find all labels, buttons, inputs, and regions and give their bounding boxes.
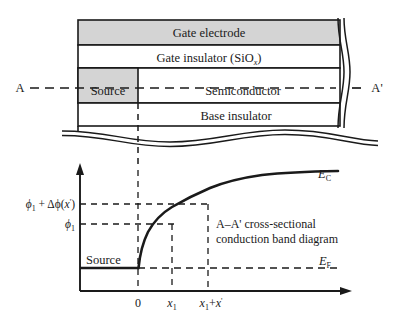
x-tick-label-zero: 0	[135, 296, 141, 310]
semiconductor-label: Semiconductor	[205, 84, 282, 98]
ef-label-base: E	[318, 254, 327, 268]
ec-label-subscript: C	[326, 174, 331, 183]
semiconductor-device-figure: Gate electrode Gate insulator (SiOx) Sou…	[0, 0, 394, 331]
gate-electrode-label: Gate electrode	[173, 26, 246, 40]
chart-annotation-line-2: conduction band diagram	[216, 232, 339, 246]
chart-annotation-line-1: A–A' cross-sectional	[216, 217, 316, 231]
gate-insulator-label: Gate insulator (SiOx)	[157, 51, 262, 67]
ef-label-subscript: F	[327, 261, 332, 270]
y-tick-phi-mid: + Δϕ(	[36, 198, 65, 211]
y-tick-phi-close: )	[71, 198, 75, 211]
gate-insulator-label-tail: )	[257, 51, 261, 65]
figure-canvas: Gate electrode Gate insulator (SiOx) Sou…	[0, 0, 394, 331]
section-label-a: A	[15, 81, 24, 95]
chart-source-label: Source	[86, 253, 121, 267]
base-insulator-label: Base insulator	[200, 109, 272, 123]
y-tick-phi1-subscript: 1	[71, 224, 75, 233]
source-region-label: Source	[91, 84, 126, 98]
ec-label-base: E	[317, 167, 326, 181]
section-label-a-prime: A'	[371, 81, 382, 95]
gate-insulator-label-text: Gate insulator (SiO	[157, 51, 254, 65]
x-tick-label-x1-plus-xprime: x1+x'	[199, 296, 223, 312]
x-tick-x1-subscript: 1	[173, 303, 177, 312]
